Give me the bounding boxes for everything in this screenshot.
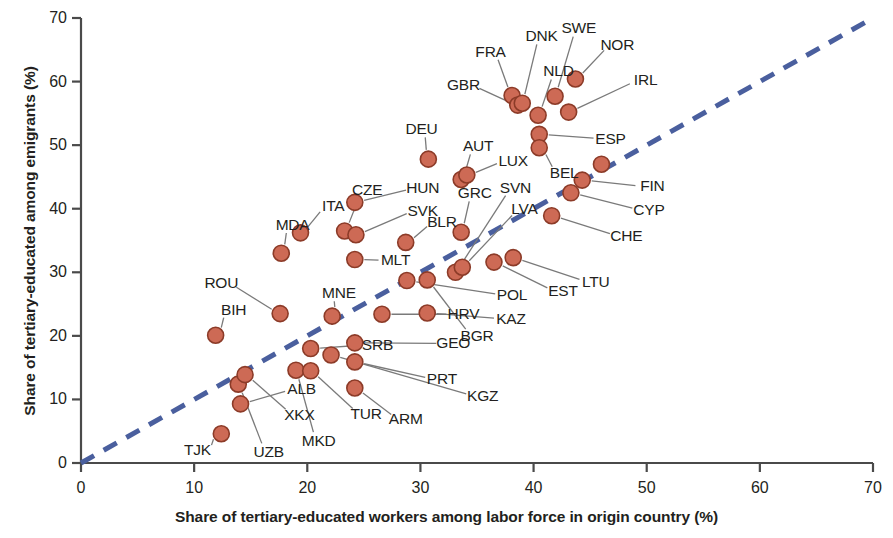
- point-label-GBR: GBR: [447, 76, 480, 94]
- leader-line-BLR: [414, 226, 427, 237]
- point-label-BGR: BGR: [461, 327, 494, 345]
- leader-line-MNE: [334, 301, 335, 307]
- leader-line-PRT: [364, 364, 425, 378]
- data-point-XKX: [237, 367, 253, 383]
- point-label-KAZ: KAZ: [496, 310, 526, 328]
- leader-line-DEU: [425, 137, 426, 149]
- data-point-SVK: [348, 227, 364, 243]
- data-point-POL: [399, 273, 415, 289]
- point-label-POL: POL: [497, 286, 527, 304]
- data-point-MDA: [273, 245, 289, 261]
- y-axis-title: Share of tertiary-educated among emigran…: [21, 6, 39, 476]
- point-label-XKX: XKX: [284, 406, 314, 424]
- x-tick-label-60: 60: [751, 479, 769, 497]
- point-label-SRB: SRB: [362, 336, 393, 354]
- point-label-TUR: TUR: [350, 405, 381, 423]
- leader-line-ITA: [308, 212, 320, 227]
- leader-line-FRA: [498, 60, 508, 87]
- data-point-ALB: [233, 396, 249, 412]
- point-label-HUN: HUN: [406, 179, 439, 197]
- point-label-GRC: GRC: [458, 184, 492, 202]
- data-point-MLT: [347, 252, 363, 268]
- x-tick-label-50: 50: [638, 479, 656, 497]
- leader-line-SVK: [365, 214, 407, 232]
- data-point-BGR: [419, 272, 435, 288]
- leader-line-XKX: [253, 380, 286, 409]
- point-label-BLR: BLR: [427, 213, 457, 231]
- data-point-TJK: [213, 426, 229, 442]
- leader-line-CYP: [580, 195, 632, 208]
- leader-line-TJK: [211, 439, 213, 445]
- point-label-ROU: ROU: [204, 274, 238, 292]
- data-point-DEU: [420, 151, 436, 167]
- x-tick-label-0: 0: [77, 479, 86, 497]
- leader-line-FIN: [592, 181, 636, 186]
- point-label-FRA: FRA: [475, 43, 505, 61]
- point-label-UZB: UZB: [254, 443, 284, 461]
- data-point-KGZ: [323, 347, 339, 363]
- point-label-MLT: MLT: [381, 251, 410, 269]
- data-point-CYP: [563, 185, 579, 201]
- leader-line-NOR: [583, 50, 604, 73]
- leader-line-MDA: [285, 233, 287, 244]
- point-label-NLD: NLD: [543, 62, 573, 80]
- point-label-LUX: LUX: [498, 152, 528, 170]
- data-point-TUR: [303, 363, 319, 379]
- point-label-TJK: TJK: [184, 441, 211, 459]
- data-point-PRT: [347, 354, 363, 370]
- scatter-chart-figure: 010203040506070010203040506070 TJKUZBXKX…: [0, 0, 893, 538]
- data-point-LUX: [459, 167, 475, 183]
- point-label-FIN: FIN: [640, 177, 664, 195]
- data-point-CHE: [544, 208, 560, 224]
- data-point-GEO: [347, 335, 363, 351]
- point-label-BEL: BEL: [550, 164, 579, 182]
- data-point-LTU: [505, 250, 521, 266]
- point-label-DEU: DEU: [405, 120, 437, 138]
- point-label-HRV: HRV: [447, 305, 479, 323]
- leader-line-LUX: [476, 164, 497, 173]
- point-label-NOR: NOR: [600, 36, 634, 54]
- data-point-DNK: [514, 95, 530, 111]
- data-point-BLR: [398, 234, 414, 250]
- point-label-IRL: IRL: [634, 71, 658, 89]
- leader-line-DNK: [525, 44, 537, 94]
- leader-lines-group: [211, 37, 635, 445]
- data-point-HRV: [374, 306, 390, 322]
- point-label-CYP: CYP: [633, 201, 664, 219]
- point-label-LVA: LVA: [511, 200, 537, 218]
- point-label-ALB: ALB: [287, 380, 316, 398]
- data-point-MKD: [288, 362, 304, 378]
- point-label-BIH: BIH: [221, 301, 246, 319]
- leader-line-CHE: [561, 218, 610, 233]
- leader-line-GRC: [464, 201, 469, 223]
- point-label-MNE: MNE: [322, 284, 356, 302]
- data-point-ARM: [347, 380, 363, 396]
- point-label-MKD: MKD: [302, 432, 336, 450]
- point-label-KGZ: KGZ: [467, 387, 498, 405]
- x-tick-label-70: 70: [864, 479, 882, 497]
- data-point-SWE: [547, 88, 563, 104]
- point-label-CZE: CZE: [352, 181, 382, 199]
- point-label-CHE: CHE: [610, 227, 642, 245]
- data-point-NLD: [530, 107, 546, 123]
- point-label-EST: EST: [548, 282, 578, 300]
- data-point-MNE: [324, 308, 340, 324]
- data-point-KAZ: [419, 305, 435, 321]
- data-point-IRL: [561, 104, 577, 120]
- x-tick-label-10: 10: [185, 479, 203, 497]
- data-point-MLT2: [593, 156, 609, 172]
- data-point-BIH: [208, 327, 224, 343]
- leader-line-IRL: [577, 84, 629, 109]
- point-label-ESP: ESP: [595, 130, 625, 148]
- data-point-LVA: [454, 259, 470, 275]
- leader-line-ESP: [549, 135, 594, 138]
- data-point-ROU: [272, 306, 288, 322]
- point-label-LTU: LTU: [582, 273, 610, 291]
- x-tick-label-30: 30: [412, 479, 430, 497]
- point-label-ITA: ITA: [322, 197, 344, 215]
- data-point-SRB: [303, 341, 319, 357]
- point-label-MDA: MDA: [276, 216, 310, 234]
- data-point-BEL: [531, 140, 547, 156]
- point-label-DNK: DNK: [525, 27, 557, 45]
- point-label-ARM: ARM: [389, 410, 423, 428]
